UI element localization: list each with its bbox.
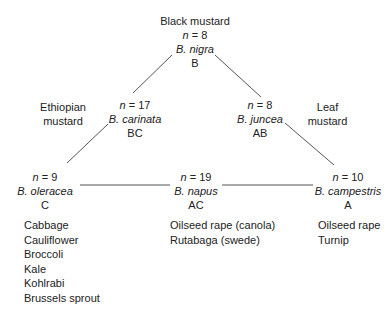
common-name: Black mustard [145, 14, 245, 28]
node-campestris: n = 10 B. campestris A [308, 170, 388, 212]
crops-napus: Oilseed rape (canola) Rutabaga (swede) [170, 218, 275, 247]
chromosome-count: n = 17 [100, 98, 170, 112]
genome-label: C [12, 198, 78, 212]
node-juncea: n = 8 B. juncea AB [225, 98, 295, 140]
species-name: B. napus [163, 184, 229, 198]
chromosome-count: n = 19 [163, 170, 229, 184]
node-oleracea: n = 9 B. oleracea C [12, 170, 78, 212]
species-name: B. oleracea [12, 184, 78, 198]
crop-item: Cauliflower [24, 233, 100, 248]
genome-label: AB [225, 126, 295, 140]
species-name: B. campestris [308, 184, 388, 198]
genome-label: AC [163, 198, 229, 212]
chromosome-count: n = 10 [308, 170, 388, 184]
crop-item: Rutabaga (swede) [170, 233, 275, 248]
crops-oleracea: Cabbage Cauliflower Broccoli Kale Kohlra… [24, 218, 100, 305]
species-name: B. nigra [145, 42, 245, 56]
common-name-juncea: Leaf mustard [300, 100, 355, 128]
chromosome-count: n = 8 [225, 98, 295, 112]
common-name-carinata: Ethiopian mustard [28, 100, 98, 128]
chromosome-count: n = 9 [12, 170, 78, 184]
crop-item: Turnip [318, 233, 380, 248]
crop-item: Kohlrabi [24, 276, 100, 291]
chromosome-count: n = 8 [145, 28, 245, 42]
crop-item: Brussels sprout [24, 291, 100, 306]
genome-label: B [145, 56, 245, 70]
node-carinata: n = 17 B. carinata BC [100, 98, 170, 140]
node-napus: n = 19 B. napus AC [163, 170, 229, 212]
crop-item: Oilseed rape (canola) [170, 218, 275, 233]
species-name: B. juncea [225, 112, 295, 126]
genome-label: A [308, 198, 388, 212]
crops-campestris: Oilseed rape Turnip [318, 218, 380, 247]
crop-item: Broccoli [24, 247, 100, 262]
crop-item: Cabbage [24, 218, 100, 233]
genome-label: BC [100, 126, 170, 140]
node-nigra: Black mustard n = 8 B. nigra B [145, 14, 245, 70]
crop-item: Oilseed rape [318, 218, 380, 233]
crop-item: Kale [24, 262, 100, 277]
species-name: B. carinata [100, 112, 170, 126]
